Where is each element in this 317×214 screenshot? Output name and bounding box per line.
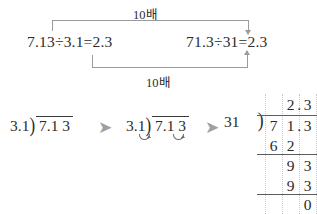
long-division-step-2: 3.1)7.1 3	[126, 116, 189, 135]
step1-divisor: 3.1	[10, 117, 29, 135]
quotient-digit-ones: 2	[282, 97, 299, 113]
worked-long-division: 31 ) 2 3 7 1 3 6 2 9 3 9 3	[224, 94, 317, 214]
decimal-division-equation: 7.13÷3.1=2.3	[27, 33, 113, 51]
partial-remainder-digit-2: 3	[299, 158, 316, 174]
step1-dividend: 7.1 3	[36, 116, 73, 135]
worksheet-canvas: 10배 7.13÷3.1=2.3 71.3÷31=2.3 10배 3.1)7.1…	[0, 0, 317, 214]
dividend-digit-1: 7	[265, 118, 282, 134]
step-arrow-1-icon: ➤	[98, 119, 112, 136]
partial-product-1-digit-1: 6	[265, 138, 282, 154]
remainder-digit: 0	[299, 197, 316, 213]
place-value-grid: 2 3 7 1 3 6 2 9 3 9 3 0	[265, 94, 317, 214]
step-arrow-2-icon: ➤	[205, 119, 219, 136]
worked-division-bracket-icon: )	[258, 109, 264, 131]
decimal-shift-arc-icon-dividend	[173, 134, 184, 140]
top-relation-bracket	[52, 20, 249, 31]
division-vinculum	[257, 115, 317, 116]
quotient-digit-tenths: 3	[299, 97, 316, 113]
dividend-digit-2: 1	[282, 118, 299, 134]
partial-remainder-digit-1: 9	[282, 158, 299, 174]
bottom-relation-bracket	[92, 55, 248, 68]
dividend-digit-3: 3	[299, 118, 316, 134]
long-division-step-1: 3.1)7.1 3	[10, 116, 73, 135]
decimal-shift-arc-icon-divisor	[139, 134, 150, 140]
bottom-bracket-up-arrow-icon	[244, 50, 250, 55]
partial-product-2-digit-1: 9	[282, 178, 299, 194]
partial-product-2-digit-2: 3	[299, 178, 316, 194]
step2-dividend: 7.1 3	[152, 116, 189, 135]
worked-divisor: 31	[224, 113, 240, 131]
step2-divisor: 3.1	[126, 117, 145, 135]
subtraction-rule-2	[257, 194, 317, 195]
step1-division-bracket-icon: )	[30, 117, 36, 133]
partial-product-1-digit-2: 2	[282, 138, 299, 154]
bottom-multiplier-label: 10배	[146, 72, 171, 91]
subtraction-rule-1	[257, 154, 317, 155]
whole-number-division-equation: 71.3÷31=2.3	[186, 33, 267, 51]
step2-division-bracket-icon: )	[146, 117, 152, 133]
